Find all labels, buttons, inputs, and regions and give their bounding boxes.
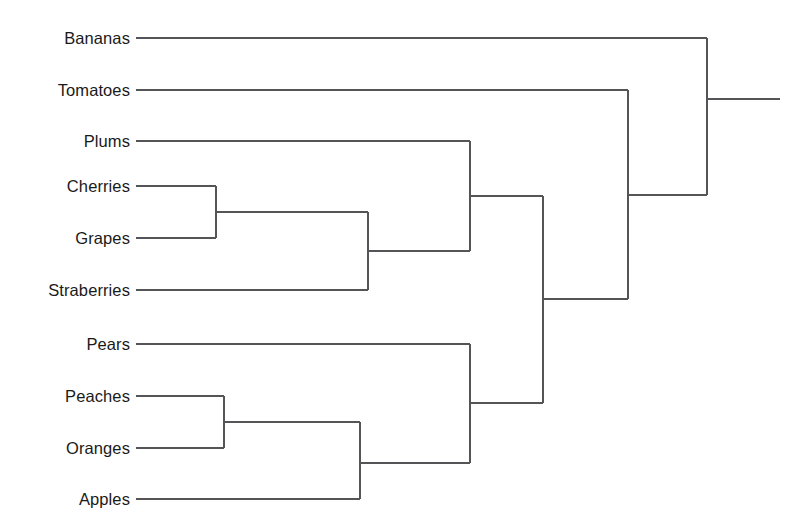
leaf-label-pears: Pears [0, 336, 130, 353]
leaf-label-apples: Apples [0, 491, 130, 508]
leaf-label-straberries: Straberries [0, 282, 130, 299]
leaf-label-cherries: Cherries [0, 178, 130, 195]
leaf-label-oranges: Oranges [0, 440, 130, 457]
leaf-label-bananas: Bananas [0, 30, 130, 47]
leaf-label-plums: Plums [0, 133, 130, 150]
leaf-label-peaches: Peaches [0, 388, 130, 405]
branch-group [136, 38, 780, 499]
leaf-label-tomatoes: Tomatoes [0, 82, 130, 99]
leaf-label-grapes: Grapes [0, 230, 130, 247]
dendrogram-chart: BananasTomatoesPlumsCherriesGrapesStrabe… [0, 0, 796, 532]
